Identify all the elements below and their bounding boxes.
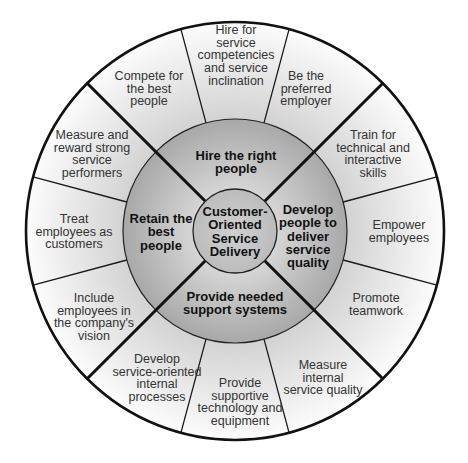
segment-line: Measure [283,359,362,372]
segment-line: performers [54,167,130,180]
strategy-line: Hire the right [196,149,277,162]
segment-train-skills: Train for technical and interactive skil… [336,129,410,180]
segment-line: Provide [198,377,283,390]
strategy-hire: Hire the right people [196,149,277,176]
segment-measure-internal-quality: Measure internal service quality [283,359,362,397]
segment-line: customers [35,238,112,251]
segment-line: Hire for [197,24,274,37]
segment-empower-employees: Empower employees [369,219,429,244]
strategy-line: service [279,243,337,256]
strategy-support: Provide needed support systems [183,290,287,317]
segment-measure-reward: Measure and reward strong service perfor… [54,129,130,180]
segment-line: Measure and [54,129,130,142]
segment-internal-processes: Develop service-oriented internal proces… [113,353,202,404]
segment-line: vision [54,330,134,343]
strategy-line: deliver [279,229,337,242]
segment-line: employer [280,95,331,108]
segment-line: Train for [336,129,410,142]
segment-line: Be the [280,70,331,83]
core-line: Service [202,232,267,245]
segment-line: Compete for [115,70,184,83]
segment-line: Promote [349,292,403,305]
segment-line: employees [369,232,429,245]
segment-line: processes [113,391,202,404]
segment-line: Treat [35,213,112,226]
strategy-retain: Retain the best people [130,212,193,252]
segment-line: skills [336,167,410,180]
strategy-line: Retain the [130,212,193,225]
segment-line: teamwork [349,305,403,318]
core-label: Customer- Oriented Service Delivery [202,205,267,258]
segment-treat-as-customers: Treat employees as customers [35,213,112,251]
strategy-develop: Develop people to deliver service qualit… [279,203,337,269]
strategy-line: people to [279,216,337,229]
segment-promote-teamwork: Promote teamwork [349,292,403,317]
strategy-line: quality [279,256,337,269]
segment-line: inclination [197,75,274,88]
core-line: Customer- [202,205,267,218]
segment-supportive-technology: Provide supportive technology and equipm… [198,377,283,428]
segment-include-in-vision: Include employees in the company's visio… [54,292,134,343]
segment-line: service quality [283,384,362,397]
strategy-line: people [196,162,277,175]
strategy-line: Provide needed [183,290,287,303]
segment-line: Develop [113,353,202,366]
strategy-line: people [130,239,193,252]
strategy-line: best [130,225,193,238]
segment-line: Include [54,292,134,305]
segment-line: Empower [369,219,429,232]
segment-line: equipment [198,415,283,428]
core-line: Oriented [202,219,267,232]
segment-preferred-employer: Be the preferred employer [280,70,331,108]
segment-hire-for-competencies: Hire for service competencies and servic… [197,24,274,88]
segment-compete-best-people: Compete for the best people [115,70,184,108]
segment-line: people [115,95,184,108]
core-line: Delivery [202,245,267,258]
strategy-line: support systems [183,303,287,316]
strategy-line: Develop [279,203,337,216]
segment-line: and service [197,62,274,75]
